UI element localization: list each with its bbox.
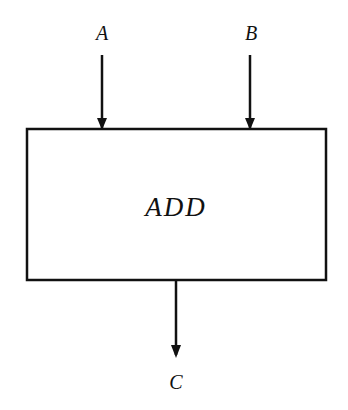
output-c-label: C xyxy=(169,371,183,393)
add-block-diagram: A B ADD C xyxy=(0,0,348,410)
input-a-label: A xyxy=(94,22,109,44)
add-block-label: ADD xyxy=(143,192,207,222)
input-b-label: B xyxy=(245,22,257,44)
output-c-arrowhead-icon xyxy=(171,345,181,358)
